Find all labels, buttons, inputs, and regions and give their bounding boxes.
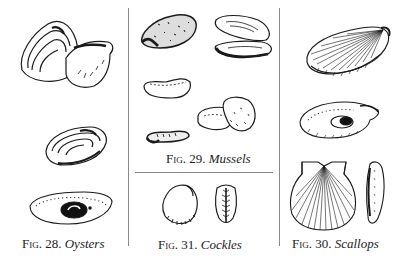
figure-number: 29.	[189, 151, 205, 166]
mussel-open-illustration	[212, 12, 274, 60]
cockle-side-illustration	[161, 182, 201, 226]
oyster-interior-illustration	[28, 190, 114, 226]
scallop-ribbed-illustration	[303, 24, 393, 80]
figure-caption-scallops: Fig. 30. Scallops	[292, 236, 379, 252]
section-divider-middle	[135, 172, 273, 173]
figure-label-prefix: Fig.	[292, 236, 312, 251]
figure-name: Cockles	[201, 237, 242, 252]
figure-number: 31.	[181, 237, 197, 252]
figure-label-prefix: Fig.	[158, 237, 178, 252]
figure-caption-oysters: Fig. 28. Oysters	[22, 236, 104, 252]
scallop-edge-illustration	[364, 160, 386, 226]
column-divider-left	[128, 8, 129, 246]
scallop-interior-illustration	[298, 98, 382, 142]
figure-name: Mussels	[209, 151, 251, 166]
mussel-small-illustration	[145, 128, 191, 144]
mussel-pair-illustration	[196, 94, 258, 136]
figure-number: 30.	[315, 236, 331, 251]
figure-caption-mussels: Fig. 29. Mussels	[166, 151, 251, 167]
column-divider-right	[279, 8, 280, 246]
figure-label-prefix: Fig.	[22, 236, 42, 251]
figure-name: Oysters	[65, 236, 105, 251]
figure-caption-cockles: Fig. 31. Cockles	[158, 237, 242, 253]
figure-name: Scallops	[335, 236, 379, 251]
oyster-side-illustration	[44, 125, 108, 167]
figure-number: 28.	[45, 236, 61, 251]
oyster-pair-illustration	[18, 18, 118, 90]
mussel-closed-illustration	[138, 12, 200, 50]
scallop-fan-illustration	[288, 160, 360, 232]
mussel-flat-illustration	[142, 76, 192, 100]
cockle-end-illustration	[213, 182, 239, 226]
figure-label-prefix: Fig.	[166, 151, 186, 166]
